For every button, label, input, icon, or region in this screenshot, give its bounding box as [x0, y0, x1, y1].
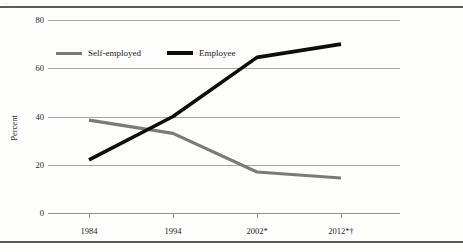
legend-swatch-self-employed: [56, 52, 82, 55]
bottom-horizontal-rule: [0, 241, 463, 243]
line-self-employed: [89, 120, 341, 178]
chart-legend: Self-employed Employee: [56, 48, 236, 58]
y-tick-label-60: 60: [4, 63, 44, 73]
document-page: ....... Percent 80 60 40 20 0 1984 1994: [0, 0, 463, 252]
y-tick-label-80: 80: [4, 15, 44, 25]
y-tick-label-40: 40: [4, 112, 44, 122]
line-employee: [89, 44, 341, 160]
x-tick-label-1994: 1994: [165, 226, 182, 236]
legend-label-employee: Employee: [199, 48, 236, 58]
x-tick-label-2002: 2002*: [246, 226, 267, 236]
legend-item-employee: Employee: [167, 48, 236, 58]
y-tick-label-20: 20: [4, 160, 44, 170]
y-tick-label-0: 0: [4, 208, 44, 218]
x-tick-label-1984: 1984: [81, 226, 98, 236]
x-tick-label-2012: 2012*†: [328, 226, 354, 236]
line-chart: Percent 80 60 40 20 0 1984 1994 2002* 20…: [0, 8, 463, 240]
legend-item-self-employed: Self-employed: [56, 48, 141, 58]
legend-label-self-employed: Self-employed: [88, 48, 141, 58]
legend-swatch-employee: [167, 51, 193, 55]
